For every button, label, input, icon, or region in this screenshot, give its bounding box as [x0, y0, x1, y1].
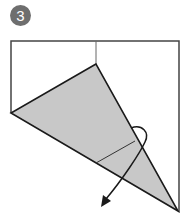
- origami-fold-diagram: [0, 0, 191, 214]
- arrowhead-icon: [101, 195, 111, 207]
- folded-flap-triangle: [11, 64, 178, 211]
